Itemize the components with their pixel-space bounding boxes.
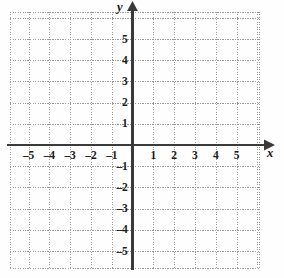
x-tick-label: –3 <box>61 150 79 162</box>
x-tick-label: 3 <box>186 150 204 162</box>
x-tick-label: –2 <box>82 150 100 162</box>
y-tick-label: –2 <box>108 182 128 194</box>
x-axis-label: x <box>267 147 273 160</box>
y-tick-label: –4 <box>108 224 128 236</box>
vertical-gridlines <box>11 12 260 269</box>
x-tick-label: 4 <box>207 150 225 162</box>
y-tick-label: –1 <box>108 161 128 173</box>
y-tick-label: 1 <box>108 118 128 130</box>
y-tick-label: –5 <box>108 246 128 258</box>
x-tick-label: 2 <box>165 150 183 162</box>
y-tick-label: –3 <box>108 203 128 215</box>
coordinate-plane-figure: y x –5–4–3–2–11234554321–1–2–3–4–5 <box>0 0 284 278</box>
y-axis <box>127 1 138 270</box>
x-tick-label: 1 <box>144 150 162 162</box>
x-tick-label: 5 <box>228 150 246 162</box>
horizontal-gridlines <box>10 12 259 269</box>
x-tick-label: –4 <box>40 150 58 162</box>
y-tick-label: 4 <box>108 55 128 67</box>
y-tick-label: 2 <box>108 97 128 109</box>
graph-canvas <box>0 0 284 278</box>
y-axis-label: y <box>117 1 123 14</box>
y-tick-label: 3 <box>108 76 128 88</box>
y-tick-label: 5 <box>108 34 128 46</box>
x-tick-label: –5 <box>20 150 38 162</box>
